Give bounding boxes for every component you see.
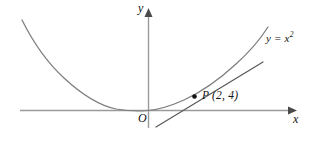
curve-equation-exponent: 2 <box>290 30 294 39</box>
curve-equation-base: y = x <box>266 32 290 44</box>
point-p-label: P (2, 4) <box>202 90 238 102</box>
curve-equation-label: y = x2 <box>266 31 294 44</box>
math-figure: y x O y = x2 P (2, 4) <box>0 0 310 144</box>
origin-label: O <box>138 112 147 124</box>
figure-canvas <box>0 0 310 144</box>
x-axis-label: x <box>293 113 299 125</box>
y-axis-label: y <box>138 2 144 14</box>
y-axis-arrowhead <box>145 8 153 17</box>
point-p-marker <box>192 94 197 99</box>
